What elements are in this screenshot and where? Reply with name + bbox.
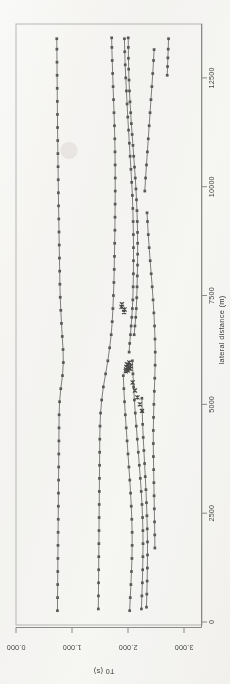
data-point-marker bbox=[136, 253, 139, 256]
data-point-marker bbox=[113, 268, 116, 271]
data-point-marker bbox=[128, 142, 131, 145]
data-point-marker bbox=[106, 359, 109, 362]
data-point-marker bbox=[128, 466, 131, 469]
data-point-marker bbox=[127, 129, 130, 132]
data-point-marker bbox=[114, 216, 117, 219]
y-axis-title: T0 (s) bbox=[93, 667, 114, 676]
data-point-marker bbox=[124, 63, 127, 66]
data-point-marker bbox=[98, 542, 101, 545]
data-point-marker bbox=[151, 72, 154, 75]
data-point-marker bbox=[132, 285, 135, 288]
data-point-marker bbox=[98, 477, 101, 480]
data-point-marker bbox=[113, 255, 116, 258]
data-point-marker bbox=[99, 425, 102, 428]
data-point-marker bbox=[124, 77, 127, 80]
data-point-marker bbox=[110, 36, 113, 39]
data-point-marker bbox=[132, 246, 135, 249]
data-point-marker bbox=[58, 270, 61, 273]
data-point-marker bbox=[143, 449, 146, 452]
pick-marker-x bbox=[131, 380, 135, 384]
data-point-marker bbox=[143, 190, 146, 193]
data-point-marker bbox=[110, 333, 113, 336]
data-point-marker bbox=[131, 557, 134, 560]
data-point-marker bbox=[146, 151, 149, 154]
data-point-marker bbox=[56, 570, 59, 573]
data-point-marker bbox=[112, 294, 115, 297]
data-point-marker bbox=[141, 423, 144, 426]
data-point-marker bbox=[148, 246, 151, 249]
data-point-marker bbox=[153, 312, 156, 315]
data-point-marker bbox=[130, 316, 133, 319]
data-point-marker bbox=[128, 79, 131, 82]
data-point-marker bbox=[111, 46, 114, 49]
data-point-marker bbox=[136, 231, 139, 234]
data-point-marker bbox=[131, 307, 134, 310]
data-point-marker bbox=[102, 386, 105, 389]
data-point-marker bbox=[57, 178, 60, 181]
data-point-marker bbox=[113, 111, 116, 114]
data-point-marker bbox=[128, 351, 131, 354]
data-point-marker bbox=[146, 528, 149, 531]
data-point-marker bbox=[146, 580, 149, 583]
series-horizon-1 bbox=[55, 37, 64, 612]
data-point-marker bbox=[149, 111, 152, 114]
data-point-marker bbox=[126, 116, 129, 119]
data-point-marker bbox=[130, 325, 133, 328]
data-point-marker bbox=[57, 531, 60, 534]
data-point-marker bbox=[138, 464, 141, 467]
data-point-marker bbox=[134, 177, 137, 180]
data-point-marker bbox=[131, 207, 134, 210]
data-point-marker bbox=[97, 568, 100, 571]
data-point-marker bbox=[56, 609, 59, 612]
data-point-marker bbox=[114, 190, 117, 193]
data-point-marker bbox=[153, 377, 156, 380]
data-point-marker bbox=[57, 205, 60, 208]
data-point-marker bbox=[130, 505, 133, 508]
data-point-marker bbox=[142, 542, 145, 545]
series-path bbox=[145, 50, 154, 191]
data-point-marker bbox=[135, 198, 138, 201]
data-point-marker bbox=[150, 272, 153, 275]
t0-axis: 0.0001.0002.0003.000 bbox=[7, 628, 194, 653]
data-point-marker bbox=[128, 342, 131, 345]
data-point-marker bbox=[145, 501, 148, 504]
series-horizon-8 bbox=[146, 211, 157, 549]
data-point-marker bbox=[58, 413, 61, 416]
data-point-marker bbox=[129, 492, 132, 495]
data-point-marker bbox=[141, 503, 144, 506]
data-point-marker bbox=[135, 188, 138, 191]
data-point-marker bbox=[144, 475, 147, 478]
data-point-marker bbox=[130, 122, 133, 125]
data-point-marker bbox=[167, 57, 170, 60]
data-point-marker bbox=[142, 555, 145, 558]
data-point-marker bbox=[141, 397, 144, 400]
data-point-marker bbox=[154, 338, 157, 341]
data-point-marker bbox=[142, 436, 145, 439]
data-point-marker bbox=[166, 74, 169, 77]
data-point-marker bbox=[147, 233, 150, 236]
data-point-marker bbox=[98, 464, 101, 467]
data-point-marker bbox=[130, 168, 133, 171]
data-point-marker bbox=[59, 309, 62, 312]
data-point-marker bbox=[131, 544, 134, 547]
data-point-marker bbox=[62, 361, 65, 364]
data-point-marker bbox=[57, 544, 60, 547]
t0-tick-label: 2.000 bbox=[119, 643, 138, 652]
data-point-marker bbox=[97, 555, 100, 558]
pick-marker-x bbox=[120, 302, 124, 306]
data-point-marker bbox=[131, 133, 134, 136]
data-point-marker bbox=[152, 442, 155, 445]
distance-tick-label: 10000 bbox=[207, 176, 216, 197]
data-point-marker bbox=[153, 507, 156, 510]
data-point-marker bbox=[60, 322, 63, 325]
data-point-marker bbox=[127, 68, 130, 71]
data-point-marker bbox=[136, 242, 139, 245]
data-point-marker bbox=[61, 335, 64, 338]
data-point-marker bbox=[123, 387, 126, 390]
plot-frame bbox=[16, 24, 202, 625]
data-point-marker bbox=[98, 438, 101, 441]
data-point-marker bbox=[131, 531, 134, 534]
data-point-marker bbox=[56, 596, 59, 599]
data-point-marker bbox=[123, 50, 126, 53]
data-point-marker bbox=[126, 440, 129, 443]
